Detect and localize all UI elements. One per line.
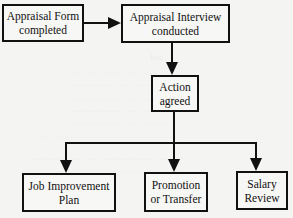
node-label-line1: Appraisal Interview bbox=[130, 10, 222, 24]
node-label-line1: Job Improvement bbox=[29, 179, 110, 193]
node-promotion-or-transfer: Promotion or Transfer bbox=[144, 172, 208, 212]
arrow-form-to-interview bbox=[83, 17, 121, 29]
node-label-line2: agreed bbox=[160, 94, 191, 108]
arrow-action-to-outcomes bbox=[60, 111, 262, 173]
node-label-line2: completed bbox=[19, 23, 67, 37]
node-appraisal-interview-conducted: Appraisal Interview conducted bbox=[121, 4, 230, 43]
node-label-line2: conducted bbox=[152, 24, 199, 38]
node-label-line1: Salary bbox=[247, 177, 276, 191]
node-salary-review: Salary Review bbox=[236, 171, 288, 210]
node-job-improvement-plan: Job Improvement Plan bbox=[22, 173, 116, 212]
node-action-agreed: Action agreed bbox=[151, 75, 199, 112]
arrow-interview-to-action bbox=[166, 42, 178, 75]
node-appraisal-form-completed: Appraisal Form completed bbox=[2, 4, 84, 42]
node-label-line2: or Transfer bbox=[151, 192, 202, 206]
node-label-line1: Promotion bbox=[152, 178, 201, 192]
node-label-line2: Review bbox=[244, 191, 279, 205]
node-label-line1: Appraisal Form bbox=[7, 9, 80, 23]
node-label-line1: Action bbox=[159, 80, 190, 94]
node-label-line2: Plan bbox=[59, 193, 79, 207]
flowchart-canvas: kno ....................................… bbox=[0, 0, 293, 218]
